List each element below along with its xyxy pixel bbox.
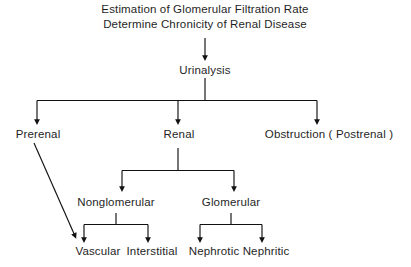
node-glomerular: Glomerular — [202, 196, 260, 209]
node-renal: Renal — [164, 128, 195, 141]
node-vascular: Vascular — [75, 245, 120, 258]
node-nonglomerular: Nonglomerular — [77, 196, 154, 209]
flowchart-canvas: Estimation of Glomerular Filtration Rate… — [0, 0, 411, 267]
node-nephritic: Nephritic — [243, 245, 290, 258]
node-nephrotic: Nephrotic — [189, 245, 240, 258]
arrow-prerenal-to-vascular — [34, 143, 75, 236]
diagram-title: Estimation of Glomerular Filtration Rate… — [101, 2, 308, 32]
node-obstruction: Obstruction ( Postrenal ) — [265, 128, 393, 141]
title-line-1: Estimation of Glomerular Filtration Rate — [101, 2, 308, 17]
title-line-2: Determine Chronicity of Renal Disease — [101, 17, 308, 32]
node-urinalysis: Urinalysis — [179, 64, 230, 77]
node-interstitial: Interstitial — [126, 245, 177, 258]
node-prerenal: Prerenal — [16, 128, 61, 141]
